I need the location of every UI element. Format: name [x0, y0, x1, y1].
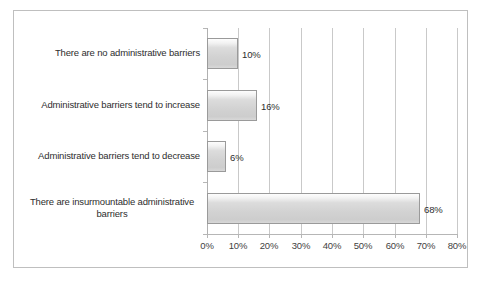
value-tick-label-80: 80% [437, 240, 477, 251]
bar-0 [207, 38, 238, 69]
value-tick-50 [363, 234, 364, 238]
value-tick-60 [395, 234, 396, 238]
bar-value-1: 16% [261, 101, 280, 112]
gridline-80 [457, 28, 458, 234]
chart-frame: There are no administrative barriers Adm… [13, 10, 468, 268]
category-label-0: There are no administrative barriers [22, 47, 200, 59]
category-label-1: Administrative barriers tend to increase [22, 99, 200, 111]
value-tick-30 [301, 234, 302, 238]
value-tick-20 [269, 234, 270, 238]
value-tick-10 [238, 234, 239, 238]
value-tick-70 [426, 234, 427, 238]
bar-value-0: 10% [242, 49, 261, 60]
category-label-3: There are insurmountable administrative … [24, 196, 200, 220]
bar-2 [207, 141, 226, 172]
value-tick-80 [457, 234, 458, 238]
bar-1 [207, 90, 257, 121]
category-label-2: Administrative barriers tend to decrease [22, 150, 200, 162]
bar-3 [207, 193, 420, 224]
value-tick-40 [332, 234, 333, 238]
value-tick-0 [207, 234, 208, 238]
bar-value-3: 68% [424, 204, 443, 215]
bar-value-2: 6% [230, 152, 244, 163]
